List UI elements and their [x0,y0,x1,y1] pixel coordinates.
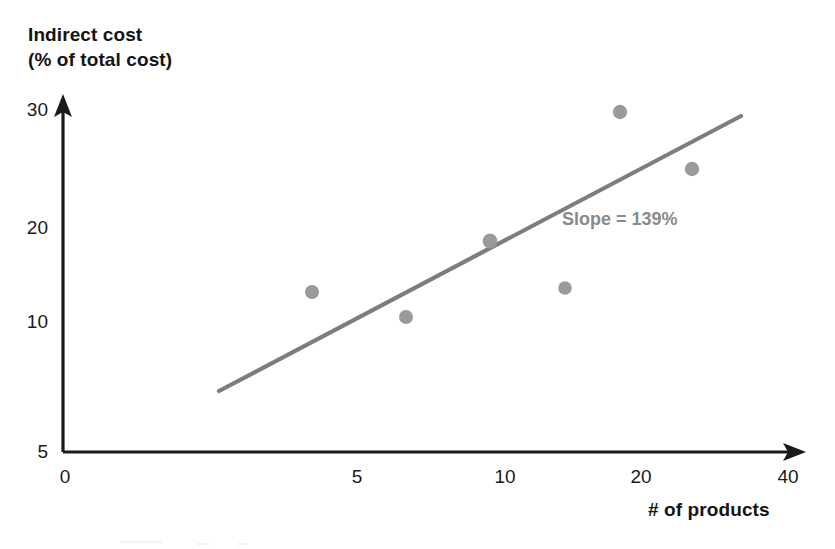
x-tick-label-5: 5 [335,466,379,488]
x-tick-label-10: 10 [483,466,527,488]
data-point [305,285,319,299]
trend-line [219,116,741,391]
scatter-chart: Indirect cost (% of total cost) # of pro… [0,0,835,549]
x-tick-label-20: 20 [619,466,663,488]
y-tick-label-10: 10 [4,311,48,333]
x-axis-title: # of products [648,499,770,521]
scan-artifact [237,543,247,545]
y-tick-label-20: 20 [4,217,48,239]
y-tick-label-5: 5 [4,441,48,463]
data-point [558,281,572,295]
data-point [483,234,498,249]
chart-canvas [0,0,835,549]
x-tick-label-40: 40 [766,466,810,488]
x-axis [63,443,806,461]
slope-annotation-label: Slope = 139% [562,209,678,230]
x-tick-label-0: 0 [43,466,87,488]
data-point [685,162,699,176]
y-tick-label-30: 30 [4,99,48,121]
scan-artifact [196,543,210,545]
y-axis-title-line1: Indirect cost [28,22,172,47]
y-axis [54,94,72,452]
scan-artifact [120,541,162,543]
y-axis-title: Indirect cost (% of total cost) [28,22,172,72]
data-point [399,310,413,324]
y-axis-title-line2: (% of total cost) [28,47,172,72]
data-point [613,105,627,119]
